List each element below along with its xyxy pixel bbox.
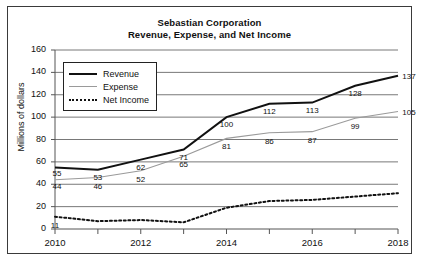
legend-line-net-income-icon [69, 96, 97, 104]
data-point-label: 81 [222, 142, 231, 151]
data-point-label: 86 [265, 136, 274, 145]
data-point-label: 44 [53, 181, 62, 190]
legend-label-revenue: Revenue [103, 69, 139, 79]
x-axis-tick-label: 2018 [378, 237, 418, 248]
legend-line-revenue-icon [69, 70, 97, 78]
data-point-label: 128 [348, 88, 361, 97]
x-axis-tick-label: 2014 [207, 237, 247, 248]
legend-item-net-income: Net Income [69, 93, 149, 106]
data-point-label: 87 [308, 135, 317, 144]
chart-legend: Revenue Expense Net Income [63, 62, 157, 111]
x-axis-tick-label: 2010 [35, 237, 75, 248]
data-point-label: 62 [136, 162, 145, 171]
legend-item-expense: Expense [69, 80, 149, 93]
data-point-label: 113 [306, 105, 319, 114]
data-point-label: 105 [402, 107, 415, 116]
data-point-label: 99 [351, 122, 360, 131]
chart-frame: Sebastian Corporation Revenue, Expense, … [7, 6, 412, 254]
chart-canvas [8, 7, 413, 255]
legend-label-expense: Expense [103, 82, 138, 92]
series-line-net-income [55, 193, 398, 222]
x-axis-tick-label: 2012 [121, 237, 161, 248]
data-point-label: 65 [179, 160, 188, 169]
data-point-label: 137 [402, 71, 415, 80]
legend-item-revenue: Revenue [69, 67, 149, 80]
data-point-label: 55 [53, 169, 62, 178]
legend-line-expense-icon [69, 83, 97, 91]
data-point-label: 52 [136, 174, 145, 183]
data-point-label: 53 [93, 172, 102, 181]
plot-area: Millions of dollars 02040608010012014016… [8, 7, 413, 255]
data-point-label: 46 [93, 181, 102, 190]
x-axis-tick-label: 2016 [292, 237, 332, 248]
data-point-label: 11 [51, 220, 59, 229]
data-point-label: 100 [220, 120, 233, 129]
data-point-label: 112 [263, 106, 276, 115]
legend-label-net-income: Net Income [103, 95, 149, 105]
